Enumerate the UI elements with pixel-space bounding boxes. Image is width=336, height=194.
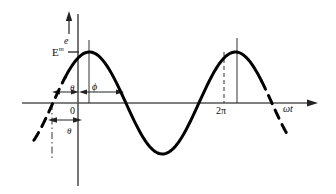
origin-label: 0 [70,106,75,116]
peak-amplitude-superscript: m [59,45,64,53]
theta-label-above-axis: θ [70,84,74,93]
x-axis-arrow-icon [307,100,318,107]
peak-amplitude-letter: E [52,46,59,58]
x-axis-label: ωt [283,104,293,114]
theta-label-below-axis: θ [67,127,71,136]
y-axis-label: e [64,36,68,46]
phi-arrow-left-head-icon [79,89,87,94]
waveform-plot-canvas [0,0,336,194]
x-tick-label-two-pi: 2π [216,106,226,116]
figure-sinusoid-phase-diagram: e Em θ ϕ 0 θ 2π ωt [0,0,336,194]
phi-label: ϕ [92,82,97,92]
y-axis-arrow-icon [66,11,72,21]
waveform-dashed-lead-segment [34,77,65,140]
peak-amplitude-label: Em [52,46,64,58]
